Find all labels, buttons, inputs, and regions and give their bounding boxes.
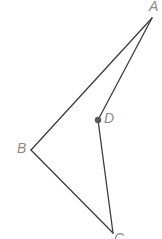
geometry-canvas bbox=[0, 0, 162, 239]
segment-DC bbox=[98, 120, 113, 233]
point-marker-d bbox=[95, 117, 101, 123]
vertex-label-d: D bbox=[104, 111, 114, 125]
vertex-label-b: B bbox=[17, 141, 26, 155]
segment-BC bbox=[31, 150, 113, 233]
vertex-label-c: C bbox=[114, 231, 124, 239]
geometry-figure: A B C D bbox=[0, 0, 162, 239]
segment-AB bbox=[31, 18, 152, 150]
vertex-label-a: A bbox=[149, 0, 158, 13]
